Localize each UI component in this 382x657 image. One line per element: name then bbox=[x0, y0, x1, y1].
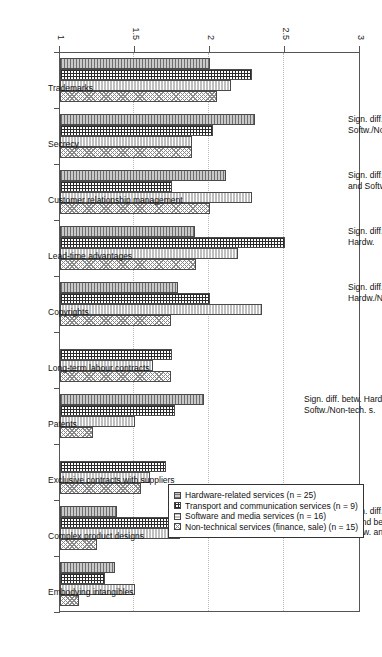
bar bbox=[60, 170, 227, 181]
bar bbox=[60, 461, 167, 472]
category-tick bbox=[54, 332, 60, 333]
category-label: Complex product designs bbox=[48, 532, 144, 541]
category-label: Embodying intangibles bbox=[48, 588, 134, 597]
significance-annotation: Sign. diff. betw. Hardw. and Softw./Non-… bbox=[348, 114, 382, 135]
legend-label: Software and media services (n = 16) bbox=[185, 512, 326, 521]
legend-label: Transport and communication services (n … bbox=[185, 502, 358, 511]
category-label: Long-term labour contracts bbox=[48, 364, 150, 373]
significance-annotation: Sign. diff. betw. Softw. and Hardw./Non-… bbox=[348, 282, 382, 303]
bar-group bbox=[60, 170, 360, 215]
chart-canvas: 32.521.51 TrademarksSecrecyCustomer rela… bbox=[0, 0, 382, 657]
category-tick bbox=[54, 276, 60, 277]
legend-label: Non-technical services (finance, sale) (… bbox=[185, 523, 358, 532]
bar bbox=[60, 226, 195, 237]
bar bbox=[60, 69, 252, 80]
category-label: Copyrights bbox=[48, 308, 89, 317]
legend-item: Hardware-related services (n = 25) bbox=[174, 491, 358, 500]
category-label: Trademarks bbox=[48, 84, 93, 93]
legend-swatch-icon bbox=[174, 502, 181, 509]
axis-tick-label: 1 bbox=[56, 0, 65, 40]
category-tick bbox=[54, 388, 60, 389]
bar-group bbox=[60, 226, 360, 271]
bar bbox=[60, 573, 105, 584]
legend-swatch-icon bbox=[174, 492, 181, 499]
category-label: Exclusive contracts with suppliers bbox=[48, 476, 175, 485]
axis-tick-label: 2 bbox=[206, 0, 215, 40]
category-tick bbox=[54, 444, 60, 445]
bar-group bbox=[60, 562, 360, 607]
category-tick bbox=[54, 108, 60, 109]
category-label: Secrecy bbox=[48, 140, 79, 149]
bar bbox=[60, 282, 179, 293]
legend-item: Software and media services (n = 16) bbox=[174, 512, 358, 521]
bar bbox=[60, 147, 192, 158]
chart-legend: Hardware-related services (n = 25)Transp… bbox=[168, 484, 364, 538]
bar bbox=[60, 506, 117, 517]
category-label: Lead-time advantages bbox=[48, 252, 132, 261]
bar bbox=[60, 293, 210, 304]
bar bbox=[60, 304, 263, 315]
category-label: Patents bbox=[48, 420, 77, 429]
bar bbox=[60, 136, 192, 147]
significance-annotation: Sign. diff. betw. Transp. and Softw. bbox=[348, 170, 382, 191]
legend-label: Hardware-related services (n = 25) bbox=[185, 491, 316, 500]
bar-group bbox=[60, 338, 360, 383]
category-tick bbox=[54, 52, 60, 53]
legend-item: Transport and communication services (n … bbox=[174, 502, 358, 511]
bar bbox=[60, 394, 204, 405]
axis-tick-label: 2.5 bbox=[281, 0, 290, 40]
bar-group bbox=[60, 114, 360, 159]
bar bbox=[60, 349, 173, 360]
bar bbox=[60, 114, 255, 125]
bar bbox=[60, 562, 116, 573]
category-label: Customer relationship management bbox=[48, 196, 183, 205]
rotated-figure-wrapper: 32.521.51 TrademarksSecrecyCustomer rela… bbox=[0, 0, 382, 657]
category-tick bbox=[54, 500, 60, 501]
bar bbox=[60, 58, 210, 69]
category-tick bbox=[54, 220, 60, 221]
significance-annotation: Sign. diff. betw. Trans. and Hardw. bbox=[348, 226, 382, 247]
significance-annotation: Sign. diff. betw. Hardw. and Softw./Non-… bbox=[304, 394, 382, 415]
bar bbox=[60, 125, 213, 136]
bar-chart-figure: 32.521.51 TrademarksSecrecyCustomer rela… bbox=[0, 0, 382, 657]
legend-item: Non-technical services (finance, sale) (… bbox=[174, 523, 358, 532]
category-tick bbox=[54, 556, 60, 557]
category-tick bbox=[54, 164, 60, 165]
bar-group bbox=[60, 58, 360, 103]
legend-swatch-icon bbox=[174, 513, 181, 520]
bar-group bbox=[60, 282, 360, 327]
legend-swatch-icon bbox=[174, 523, 181, 530]
category-tick bbox=[54, 612, 60, 613]
axis-tick-label: 3 bbox=[356, 0, 365, 40]
bar bbox=[60, 237, 285, 248]
bar bbox=[60, 405, 176, 416]
bar bbox=[60, 181, 173, 192]
axis-tick-label: 1.5 bbox=[131, 0, 140, 40]
